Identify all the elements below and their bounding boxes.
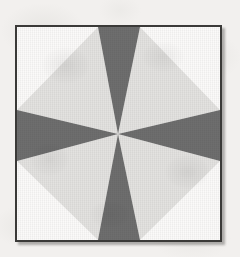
- quilt-block-frame[interactable]: [15, 25, 222, 242]
- quilt-block-svg: [17, 27, 220, 240]
- page-canvas: [0, 0, 240, 257]
- quilt-block-inner: [17, 27, 220, 240]
